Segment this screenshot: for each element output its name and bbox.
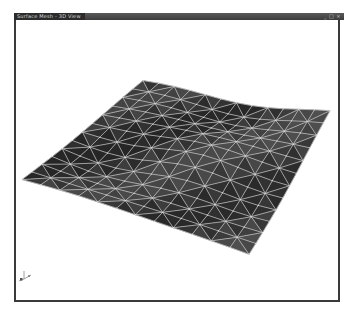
mesh-node <box>267 107 268 108</box>
mesh-edge <box>276 120 292 121</box>
mesh-node <box>62 148 63 149</box>
surface-mesh[interactable] <box>0 0 355 314</box>
mesh-node <box>143 206 144 207</box>
mesh-node <box>293 144 294 145</box>
mesh-node <box>168 149 169 150</box>
mesh-node <box>202 133 203 134</box>
mesh-node <box>109 127 110 128</box>
mesh-node <box>171 107 172 108</box>
mesh-node <box>269 151 270 152</box>
mesh-node <box>243 117 244 118</box>
mesh-node <box>282 197 283 198</box>
mesh-node <box>138 100 139 101</box>
axis-triad-icon <box>18 268 34 284</box>
mesh-node <box>194 123 195 124</box>
mesh-node <box>160 161 161 162</box>
mesh-node <box>329 110 330 111</box>
mesh-node <box>233 210 234 211</box>
mesh-node <box>135 214 136 215</box>
mesh-node <box>218 230 219 231</box>
mesh-node <box>207 215 208 216</box>
mesh-node <box>119 117 120 118</box>
mesh-node <box>186 130 187 131</box>
mesh-node <box>124 157 125 158</box>
mesh-node <box>186 180 187 181</box>
mesh-node <box>309 147 310 148</box>
mesh-node <box>236 141 237 142</box>
mesh-node <box>116 208 117 209</box>
mesh-node <box>106 194 107 195</box>
mesh-node <box>220 98 221 99</box>
mesh-node <box>72 140 73 141</box>
mesh-node <box>286 155 287 156</box>
mesh-node <box>133 171 134 172</box>
mesh-node <box>189 208 190 209</box>
mesh-node <box>97 201 98 202</box>
mesh-node <box>189 90 190 91</box>
mesh-node <box>185 151 186 152</box>
mesh-node <box>275 209 276 210</box>
mesh-node <box>31 171 32 172</box>
mesh-node <box>284 131 285 132</box>
mesh-node <box>132 88 133 89</box>
mesh-node <box>272 180 273 181</box>
mesh-node <box>296 173 297 174</box>
mesh-node <box>78 195 79 196</box>
mesh-node <box>219 137 220 138</box>
mesh-node <box>262 232 263 233</box>
mesh-node <box>160 136 161 137</box>
mesh-node <box>107 152 108 153</box>
mesh-node <box>106 176 107 177</box>
mesh-node <box>199 224 200 225</box>
mesh-node <box>142 80 143 81</box>
mesh-node <box>177 163 178 164</box>
mesh-node <box>78 177 79 178</box>
mesh-node <box>204 186 205 187</box>
mesh-node <box>300 132 301 133</box>
mesh-node <box>102 114 103 115</box>
mesh-node <box>21 179 22 180</box>
mesh-node <box>314 109 315 110</box>
mesh-node <box>178 192 179 193</box>
mesh-node <box>162 212 163 213</box>
mesh-node <box>211 240 212 241</box>
mesh-node <box>158 83 159 84</box>
mesh-node <box>124 181 125 182</box>
mesh-node <box>145 111 146 112</box>
mesh-node <box>195 167 196 168</box>
mesh-node <box>116 142 117 143</box>
mesh-node <box>244 227 245 228</box>
mesh-node <box>142 159 143 160</box>
mesh-node <box>251 216 252 217</box>
mesh-node <box>88 170 89 171</box>
mesh-node <box>148 91 149 92</box>
mesh-node <box>122 97 123 98</box>
mesh-node <box>173 227 174 228</box>
mesh-node <box>212 172 213 173</box>
mesh-node <box>251 128 252 129</box>
mesh-node <box>187 112 188 113</box>
mesh-edge <box>283 109 299 110</box>
mesh-node <box>298 109 299 110</box>
mesh-node <box>276 140 277 141</box>
mesh-node <box>222 192 223 193</box>
mesh-node <box>228 113 229 114</box>
mesh-node <box>260 137 261 138</box>
mesh-node <box>302 160 303 161</box>
mesh-node <box>255 243 256 244</box>
mesh-node <box>248 254 249 255</box>
mesh-node <box>258 205 259 206</box>
mesh-node <box>211 144 212 145</box>
mesh-node <box>89 147 90 148</box>
mesh-node <box>211 127 212 128</box>
mesh-node <box>230 179 231 180</box>
mesh-node <box>235 125 236 126</box>
mesh-node <box>125 200 126 201</box>
mesh-node <box>169 176 170 177</box>
mesh-node <box>164 95 165 96</box>
mesh-node <box>52 156 53 157</box>
mesh-node <box>134 145 135 146</box>
mesh-node <box>247 187 248 188</box>
mesh-node <box>244 134 245 135</box>
mesh-node <box>275 120 276 121</box>
